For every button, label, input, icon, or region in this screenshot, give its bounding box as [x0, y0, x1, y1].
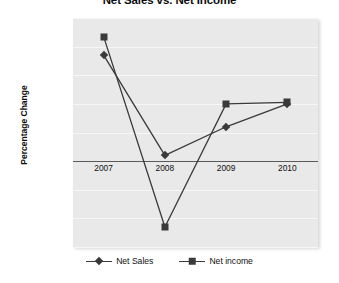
chart-container: Net Sales vs. Net Income Percentage Chan…	[0, 0, 339, 283]
x-axis-tick-label: 2008	[137, 163, 193, 173]
data-point-marker	[223, 100, 230, 107]
legend-marker-icon	[86, 257, 112, 266]
data-point-marker	[284, 99, 291, 106]
data-point-marker	[161, 223, 168, 230]
plot-area: 2007200820092010	[73, 18, 318, 247]
x-axis-tick-label: 2010	[259, 163, 315, 173]
chart-legend: Net SalesNet income	[0, 256, 339, 266]
series-lines	[73, 18, 318, 247]
legend-label: Net Sales	[116, 256, 153, 266]
y-axis-title: Percentage Change	[19, 55, 29, 195]
gridline	[73, 247, 318, 248]
x-axis-tick-label: 2009	[198, 163, 254, 173]
legend-marker-icon	[179, 257, 205, 266]
data-point-marker	[100, 33, 107, 40]
legend-entry[interactable]: Net Sales	[86, 256, 153, 266]
series-line	[104, 55, 288, 155]
chart-title: Net Sales vs. Net Income	[0, 0, 339, 6]
x-axis-tick-label: 2007	[76, 163, 132, 173]
series-line	[104, 37, 288, 227]
legend-label: Net income	[209, 256, 252, 266]
legend-entry[interactable]: Net income	[179, 256, 252, 266]
